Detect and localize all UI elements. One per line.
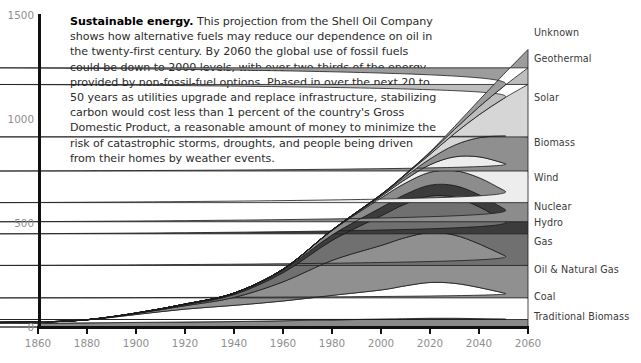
series-label-solar: Solar bbox=[534, 92, 559, 103]
x-tick-label: 2020 bbox=[417, 337, 443, 349]
x-tick-label: 2000 bbox=[368, 337, 394, 349]
series-label-geothermal: Geothermal bbox=[534, 53, 592, 64]
x-tick-label: 1860 bbox=[25, 337, 51, 349]
series-label-unknown: Unknown bbox=[534, 27, 579, 38]
x-tick-label: 1880 bbox=[74, 337, 100, 349]
x-tick-mark bbox=[429, 326, 431, 334]
x-tick-mark bbox=[380, 326, 382, 334]
x-tick-mark bbox=[135, 326, 137, 334]
x-tick-label: 1900 bbox=[123, 337, 149, 349]
series-label-oil-natural-gas: Oil & Natural Gas bbox=[534, 264, 619, 275]
y-tick-label: 1000 bbox=[8, 113, 34, 125]
series-label-gas: Gas bbox=[534, 236, 553, 247]
y-axis-line bbox=[38, 14, 41, 328]
x-tick-label: 1940 bbox=[221, 337, 247, 349]
series-label-traditional-biomass: Traditional Biomass bbox=[534, 311, 629, 322]
x-tick-label: 2060 bbox=[515, 337, 541, 349]
x-tick-label: 2040 bbox=[466, 337, 492, 349]
y-tick-label: 500 bbox=[14, 217, 34, 229]
series-label-hydro: Hydro bbox=[534, 217, 563, 228]
x-tick-mark bbox=[478, 326, 480, 334]
y-tick-label: 1500 bbox=[8, 9, 34, 21]
y-tick-label: 0 bbox=[27, 321, 34, 333]
x-tick-label: 1920 bbox=[172, 337, 198, 349]
series-label-coal: Coal bbox=[534, 291, 556, 302]
series-label-nuclear: Nuclear bbox=[534, 201, 572, 212]
series-label-biomass: Biomass bbox=[534, 137, 575, 148]
x-tick-mark bbox=[233, 326, 235, 334]
x-tick-mark bbox=[184, 326, 186, 334]
x-tick-mark bbox=[282, 326, 284, 334]
x-tick-mark bbox=[331, 326, 333, 334]
x-tick-mark bbox=[37, 326, 39, 334]
x-tick-mark bbox=[527, 326, 529, 334]
x-tick-label: 1980 bbox=[319, 337, 345, 349]
series-label-wind: Wind bbox=[534, 172, 559, 183]
x-tick-label: 1960 bbox=[270, 337, 296, 349]
x-tick-mark bbox=[86, 326, 88, 334]
chart-figure: Sustainable energy. This projection from… bbox=[0, 0, 641, 363]
